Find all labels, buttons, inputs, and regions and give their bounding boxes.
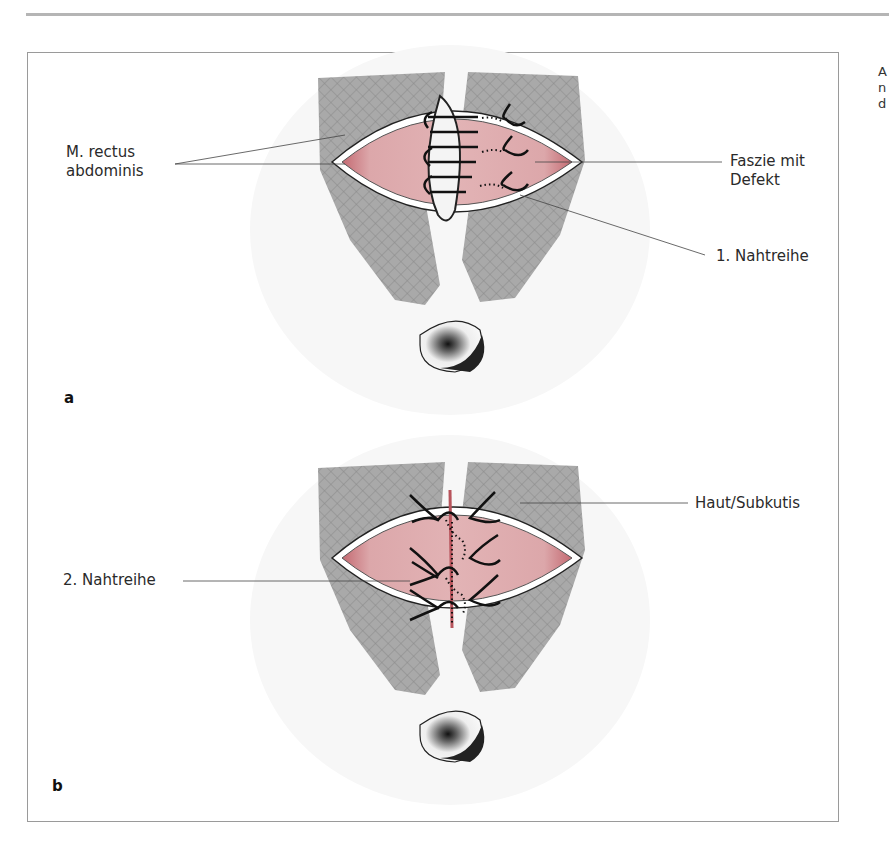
label-line: Faszie mit — [730, 152, 805, 171]
panel-a-illustration — [175, 45, 722, 415]
label-line: abdominis — [66, 162, 144, 181]
panel-letter-b: b — [52, 777, 63, 795]
surgical-illustration — [0, 0, 889, 842]
label-line: Defekt — [730, 171, 805, 190]
label-skin-subcutis: Haut/Subkutis — [695, 494, 800, 513]
label-line: M. rectus — [66, 143, 144, 162]
panel-b-illustration — [183, 435, 688, 805]
label-second-suture-row: 2. Nahtreihe — [63, 571, 156, 590]
label-first-suture-row: 1. Nahtreihe — [716, 247, 809, 266]
label-fascia-with-defect: Faszie mit Defekt — [730, 152, 805, 190]
label-m-rectus-abdominis: M. rectus abdominis — [66, 143, 144, 181]
panel-letter-a: a — [64, 389, 74, 407]
